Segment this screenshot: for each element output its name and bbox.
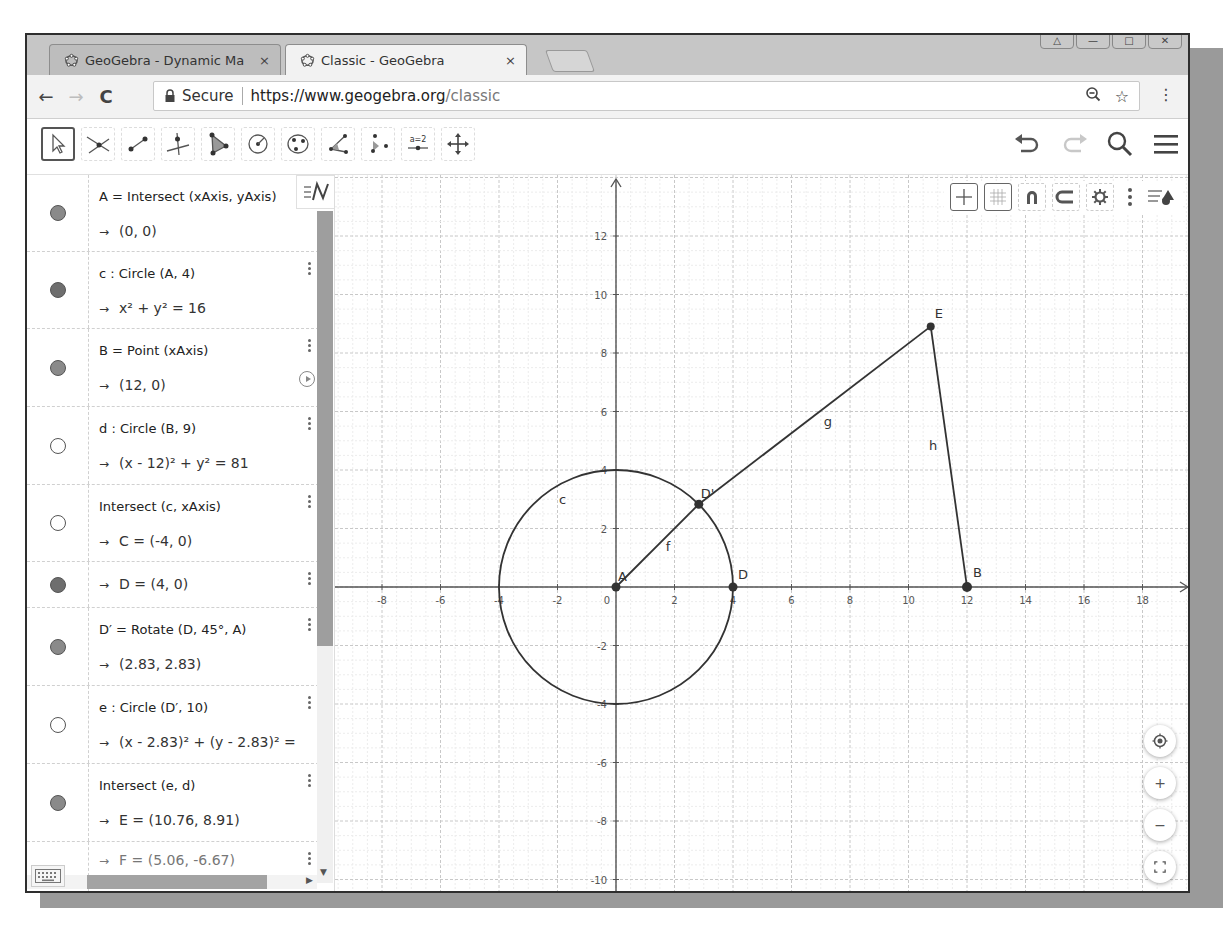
graphics-settings-button[interactable] — [1086, 183, 1114, 211]
maximize-button[interactable]: □ — [1112, 33, 1146, 49]
toggle-axes-button[interactable] — [950, 183, 978, 211]
visibility-toggle[interactable] — [50, 205, 66, 221]
algebra-value: →(12, 0) — [99, 377, 166, 393]
perpendicular-line-tool-button[interactable] — [161, 127, 195, 161]
tab-classic-geogebra[interactable]: Classic - GeoGebra × — [285, 44, 527, 75]
close-icon[interactable]: × — [259, 53, 270, 68]
axes — [335, 179, 1188, 891]
toggle-style-bar-button[interactable] — [1146, 183, 1176, 211]
back-button[interactable]: ← — [35, 86, 57, 108]
algebra-description-icon — [301, 181, 331, 203]
marble-cell — [27, 329, 89, 406]
angle-tool-button[interactable] — [321, 127, 355, 161]
geogebra-toolbar-right — [1012, 129, 1182, 159]
more-options-icon[interactable] — [1120, 188, 1140, 206]
close-icon[interactable]: × — [505, 53, 516, 68]
user-icon[interactable]: △ — [1040, 33, 1074, 49]
coordinate-plane[interactable]: -8-6-4-202468101214161812108642-2-4-6-8-… — [335, 175, 1188, 891]
polygon-tool-button[interactable] — [201, 127, 235, 161]
move-tool-button[interactable] — [41, 127, 75, 161]
segment-tool-button[interactable] — [121, 127, 155, 161]
more-options-icon[interactable] — [307, 850, 311, 867]
svg-text:2: 2 — [601, 524, 607, 535]
address-bar[interactable]: Secure https://www.geogebra.org/classic … — [153, 81, 1140, 111]
marble-cell — [27, 175, 89, 251]
more-options-icon[interactable] — [307, 493, 311, 510]
algebra-definition: Intersect (c, xAxis) — [99, 499, 221, 514]
bookmark-star-icon[interactable]: ☆ — [1115, 87, 1129, 106]
graphics-view[interactable]: -8-6-4-202468101214161812108642-2-4-6-8-… — [335, 175, 1188, 891]
value-text: (x - 12)² + y² = 81 — [119, 455, 249, 471]
marble-cell — [27, 764, 89, 841]
circle-center-point-tool-button[interactable] — [241, 127, 275, 161]
close-button[interactable]: ✕ — [1148, 33, 1182, 49]
algebra-style-button[interactable] — [296, 175, 335, 209]
arrow-icon: → — [99, 814, 109, 828]
more-options-icon[interactable] — [307, 337, 311, 354]
browser-window: GeoGebra - Dynamic Ma × Classic - GeoGeb… — [25, 33, 1190, 893]
algebra-row-Dprime[interactable]: D′ = Rotate (D, 45°, A) →(2.83, 2.83) — [27, 608, 319, 686]
play-animation-icon[interactable] — [299, 371, 315, 387]
scroll-down-arrow-icon[interactable]: ▼ — [320, 867, 327, 877]
fullscreen-button[interactable] — [1144, 851, 1176, 883]
arrow-cursor-icon — [45, 131, 71, 157]
visibility-toggle[interactable] — [50, 795, 66, 811]
algebra-row-e[interactable]: e : Circle (D′, 10) →(x - 2.83)² + (y - … — [27, 686, 319, 764]
algebra-row-B[interactable]: B = Point (xAxis) →(12, 0) — [27, 329, 319, 407]
zoom-out-button[interactable]: − — [1144, 809, 1176, 841]
reflect-tool-button[interactable] — [361, 127, 395, 161]
algebra-row-c[interactable]: c : Circle (A, 4) →x² + y² = 16 — [27, 252, 319, 329]
arrow-icon: → — [99, 379, 109, 393]
browser-menu-icon[interactable]: ⋮ — [1158, 87, 1174, 103]
main-menu-button[interactable] — [1150, 129, 1182, 159]
visibility-toggle[interactable] — [50, 515, 66, 531]
visibility-toggle[interactable] — [50, 438, 66, 454]
zoom-in-button[interactable]: + — [1144, 767, 1176, 799]
horizontal-scrollbar-thumb[interactable] — [87, 875, 267, 889]
algebra-row-d[interactable]: d : Circle (B, 9) →(x - 12)² + y² = 81 — [27, 407, 319, 485]
new-tab-button[interactable] — [545, 50, 595, 72]
visibility-toggle[interactable] — [50, 577, 66, 593]
toggle-grid-button[interactable] — [984, 183, 1012, 211]
more-options-icon[interactable] — [307, 415, 311, 432]
zoom-out-icon[interactable] — [1085, 86, 1101, 106]
algebra-row-E[interactable]: Intersect (e, d) →E = (10.76, 8.91) — [27, 764, 319, 842]
segment-icon — [125, 131, 151, 157]
move-graphics-view-tool-button[interactable] — [441, 127, 475, 161]
tab-geogebra-dynamic[interactable]: GeoGebra - Dynamic Ma × — [49, 44, 281, 75]
search-button[interactable] — [1104, 129, 1136, 159]
horizontal-scrollbar[interactable]: ▶ — [27, 875, 317, 889]
visibility-toggle[interactable] — [50, 282, 66, 298]
slider-tool-button[interactable]: a=2 — [401, 127, 435, 161]
more-options-icon[interactable] — [307, 570, 311, 587]
vertical-scrollbar-thumb[interactable] — [317, 211, 333, 646]
reload-button[interactable]: C — [95, 86, 117, 108]
arrow-icon: → — [99, 302, 109, 316]
algebra-row-D[interactable]: →D = (4, 0) — [27, 562, 319, 608]
svg-text:B: B — [973, 565, 982, 580]
algebra-row-A[interactable]: A = Intersect (xAxis, yAxis) →(0, 0) — [27, 175, 319, 252]
minimize-button[interactable]: — — [1076, 33, 1110, 49]
intersect-tool-button[interactable] — [81, 127, 115, 161]
visibility-toggle[interactable] — [50, 717, 66, 733]
more-options-icon[interactable] — [307, 616, 311, 633]
algebra-row-intersect-c-xaxis[interactable]: Intersect (c, xAxis) →C = (-4, 0) — [27, 485, 319, 562]
scroll-right-arrow-icon[interactable]: ▶ — [306, 875, 313, 885]
arrow-icon: → — [99, 578, 109, 592]
point-capturing-button[interactable] — [1018, 183, 1046, 211]
more-options-icon[interactable] — [307, 772, 311, 789]
magnet-icon — [1022, 187, 1042, 207]
visibility-toggle[interactable] — [50, 360, 66, 376]
circle-three-points-tool-button[interactable] — [281, 127, 315, 161]
more-options-icon[interactable] — [307, 694, 311, 711]
redo-button[interactable] — [1058, 129, 1090, 159]
standard-view-button[interactable] — [1144, 725, 1176, 757]
undo-button[interactable] — [1012, 129, 1044, 159]
more-options-icon[interactable] — [307, 260, 311, 277]
view-options-button[interactable] — [1052, 183, 1080, 211]
visibility-toggle[interactable] — [50, 639, 66, 655]
url-host: https://www.geogebra.org — [251, 87, 446, 105]
keyboard-button[interactable] — [31, 865, 65, 887]
undo-icon — [1013, 132, 1043, 156]
forward-button[interactable]: → — [65, 86, 87, 108]
